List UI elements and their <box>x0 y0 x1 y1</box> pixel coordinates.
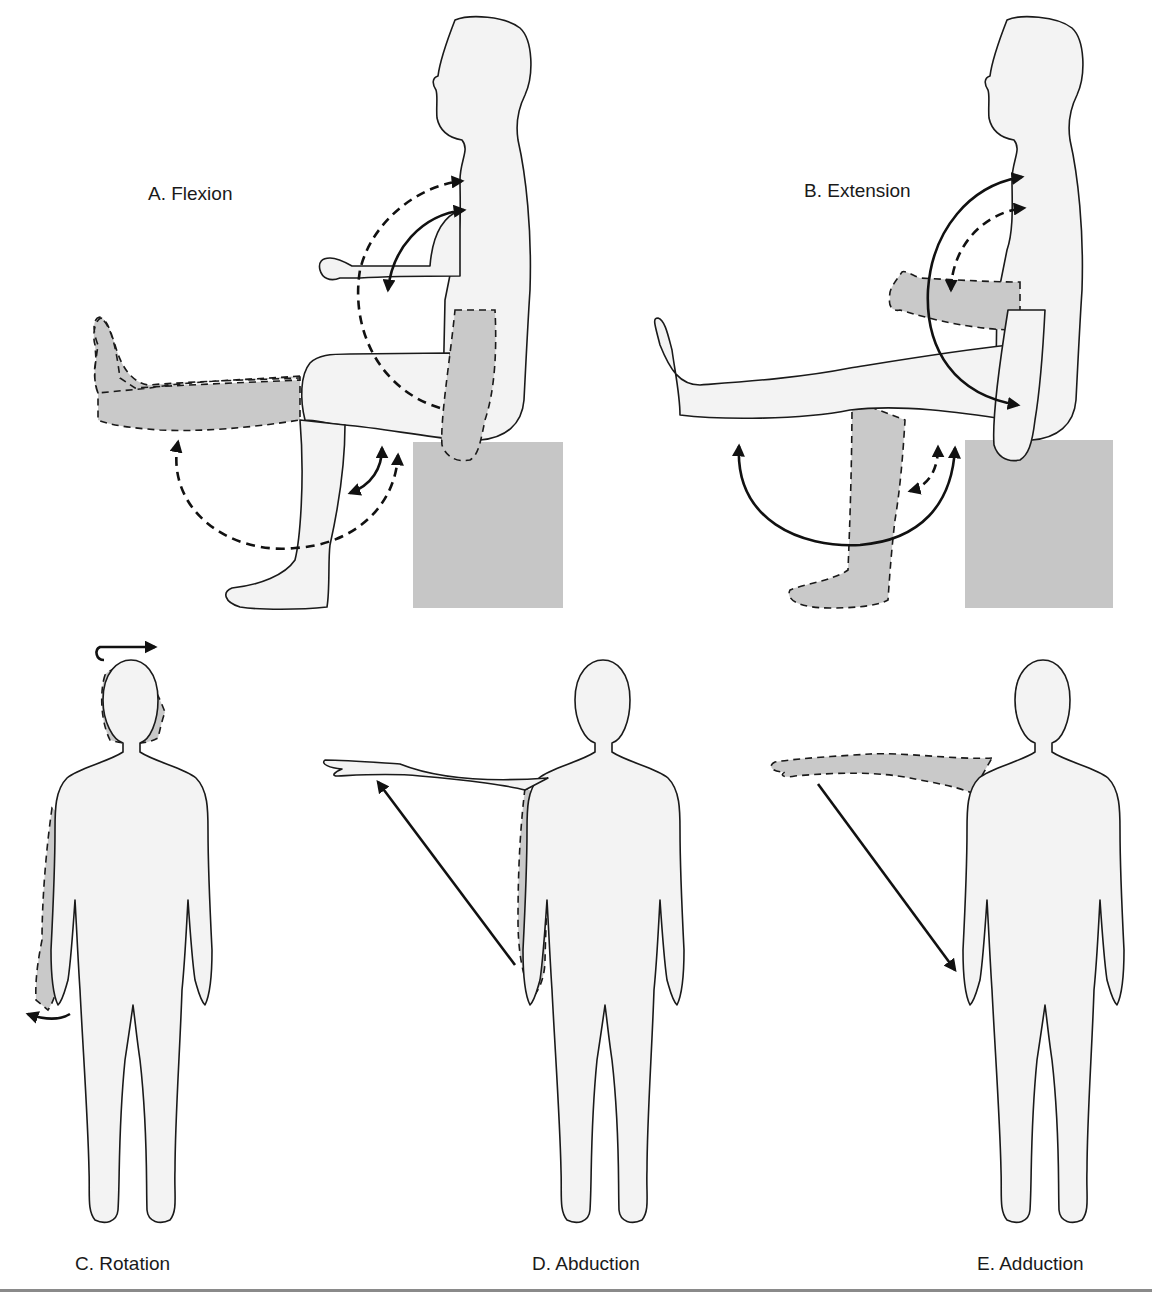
seat-block <box>965 440 1113 608</box>
ghost-lower-leg <box>789 400 905 608</box>
solid-arc-arrow-leg <box>739 446 955 545</box>
bottom-divider <box>0 1289 1152 1292</box>
panel-c-rotation <box>28 647 212 1222</box>
straight-arrow-up <box>378 782 515 965</box>
dashed-arc-arrow-leg <box>176 442 398 549</box>
lower-leg <box>226 420 345 609</box>
panel-label-b: B. Extension <box>804 180 911 202</box>
rotation-arrow-hand <box>28 1014 70 1019</box>
panel-label-e: E. Adduction <box>977 1253 1084 1275</box>
solid-arc-arrow-leg <box>350 448 382 493</box>
dashed-arc-arrow-leg <box>910 447 938 491</box>
panel-d-abduction <box>324 660 684 1222</box>
seat-block <box>413 442 563 608</box>
panel-label-c: C. Rotation <box>75 1253 170 1275</box>
standing-figure <box>963 660 1124 1222</box>
standing-figure <box>523 660 684 1222</box>
abducted-arm <box>324 760 548 790</box>
straight-arrow-down <box>818 784 955 970</box>
panel-e-adduction <box>771 660 1124 1222</box>
panel-label-a: A. Flexion <box>148 183 232 205</box>
rotation-arrow-head <box>97 647 155 660</box>
panel-b-extension <box>655 17 1113 608</box>
panel-label-d: D. Abduction <box>532 1253 640 1275</box>
extended-leg <box>655 318 1010 420</box>
ghost-abducted-arm <box>771 754 992 793</box>
panel-a-flexion <box>94 17 563 610</box>
standing-figure <box>51 660 212 1222</box>
flexed-arm <box>319 210 460 280</box>
ghost-lower-leg <box>94 317 300 431</box>
